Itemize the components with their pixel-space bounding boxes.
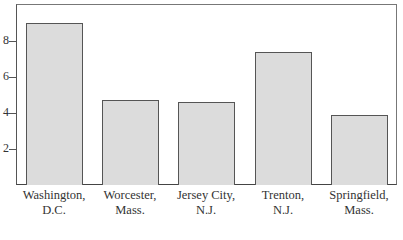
y-tick-label: 2 <box>2 141 10 156</box>
y-tick-label: 6 <box>2 69 10 84</box>
bar-jersey-city <box>178 102 235 185</box>
y-tick <box>9 77 17 78</box>
bar-trenton <box>255 52 312 185</box>
bar-worcester <box>102 100 159 185</box>
y-tick <box>9 113 17 114</box>
y-tick-label: 8 <box>2 33 10 48</box>
x-label-springfield: Springfield,Mass. <box>314 188 403 218</box>
y-tick <box>9 149 17 150</box>
bar-washington <box>26 23 83 185</box>
bar-springfield <box>331 115 388 185</box>
y-tick-label: 4 <box>2 105 10 120</box>
y-tick <box>9 41 17 42</box>
